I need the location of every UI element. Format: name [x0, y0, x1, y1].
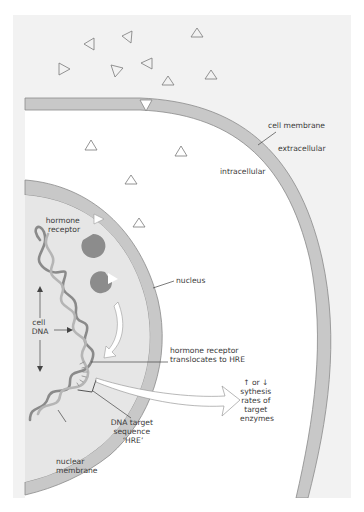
label-extracellular: extracellular: [278, 144, 326, 153]
label-intracellular: intracellular: [220, 167, 266, 176]
label-cell-membrane: cell membrane: [268, 121, 325, 130]
label-cell-dna: cell DNA: [32, 318, 50, 336]
label-nucleus: nucleus: [176, 276, 205, 285]
label-synthesis: ↑ or ↓ sythesis rates of target enzymes: [240, 378, 274, 423]
label-translocates: hormone receptor translocates to HRE: [170, 346, 245, 364]
label-hormone-receptor: hormone receptor: [46, 216, 82, 234]
hormone-receptor-diagram: cell membrane extracellular intracellula…: [0, 0, 364, 512]
